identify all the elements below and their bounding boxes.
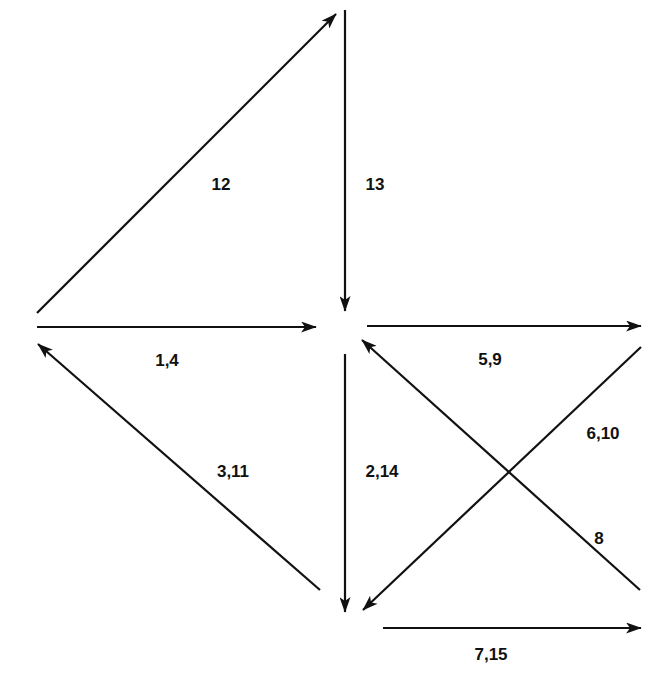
edge-label-7-15: 7,15 [474,645,507,665]
edge-label-1-4: 1,4 [155,351,179,371]
edge-label-13: 13 [366,175,385,195]
edge-label-5-9: 5,9 [478,350,502,370]
edge-label-2-14: 2,14 [365,462,398,482]
edge-label-3-11: 3,11 [217,462,249,482]
edge-label-8: 8 [594,529,603,549]
edge-bottom-to-left-arrow [38,344,320,590]
edge-bottom-right-to-center-arrow [362,340,640,590]
flow-diagram [0,0,670,687]
edge-label-12: 12 [212,175,231,195]
edge-label-6-10: 6,10 [586,424,619,444]
edge-right-to-bottom-arrow [363,347,641,610]
edge-left-to-top-arrow [37,14,336,313]
edges-layer [37,10,641,628]
